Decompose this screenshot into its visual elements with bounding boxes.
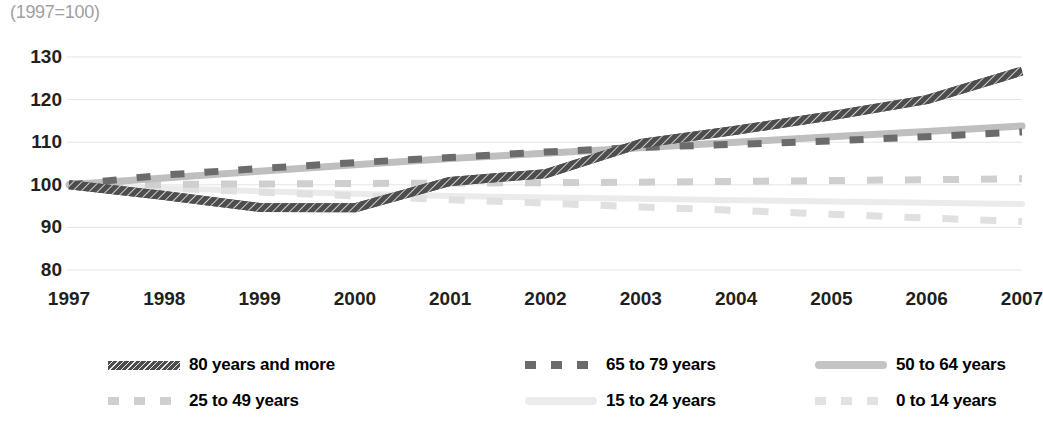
legend-swatch-icon (815, 361, 887, 369)
legend-swatch-icon (815, 397, 887, 405)
chart-legend: 80 years and more65 to 79 years50 to 64 … (0, 345, 1041, 425)
gridlines (67, 57, 1022, 270)
legend-label: 80 years and more (189, 355, 335, 375)
legend-swatch-icon (108, 361, 180, 370)
legend-item[interactable]: 80 years and more (108, 353, 335, 377)
legend-label: 0 to 14 years (896, 391, 996, 411)
legend-label: 65 to 79 years (606, 355, 716, 375)
legend-item[interactable]: 25 to 49 years (108, 389, 299, 413)
legend-item[interactable]: 15 to 24 years (525, 389, 716, 413)
legend-swatch-icon (525, 361, 597, 369)
legend-item[interactable]: 0 to 14 years (815, 389, 996, 413)
series-line (69, 179, 1022, 185)
legend-label: 15 to 24 years (606, 391, 716, 411)
legend-label: 50 to 64 years (896, 355, 1006, 375)
legend-item[interactable]: 65 to 79 years (525, 353, 716, 377)
legend-item[interactable]: 50 to 64 years (815, 353, 1006, 377)
legend-label: 25 to 49 years (189, 391, 299, 411)
series-lines (69, 71, 1022, 221)
legend-swatch-icon (108, 397, 180, 405)
legend-swatch-icon (525, 397, 597, 405)
